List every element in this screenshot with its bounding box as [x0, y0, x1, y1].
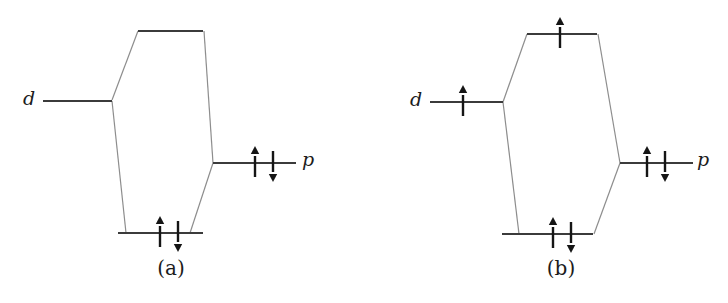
- spin-up-arrow-head: [459, 85, 467, 93]
- d-orbital-label-b: d: [410, 90, 422, 109]
- spin-down-arrow-icon: [661, 151, 669, 182]
- spin-up-arrow-head: [556, 17, 564, 25]
- spin-down-arrow-head: [269, 174, 277, 182]
- spin-down-arrow-head: [567, 245, 575, 253]
- spin-up-arrow-head: [251, 146, 259, 154]
- spin-up-arrow-icon: [459, 85, 467, 116]
- p-orbital-label-b: p: [697, 150, 709, 169]
- connector-line: [598, 34, 620, 163]
- p-orbital-label-a: p: [302, 150, 314, 169]
- spin-down-arrow-icon: [174, 221, 182, 252]
- connector-line: [503, 102, 519, 234]
- diagram-caption-a: (a): [151, 258, 191, 278]
- spin-up-arrow-icon: [156, 216, 164, 247]
- spin-up-arrow-icon: [549, 217, 557, 248]
- spin-up-arrow-icon: [556, 17, 564, 48]
- spin-down-arrow-head: [174, 244, 182, 252]
- connector-line: [190, 163, 213, 233]
- connector-line: [112, 31, 138, 100]
- connector-line: [112, 101, 126, 233]
- spin-up-arrow-head: [549, 217, 557, 225]
- figure-canvas: [0, 0, 728, 303]
- connector-line: [204, 31, 213, 163]
- orbital-energy-diagram-figure: d p (a) d p (b): [0, 0, 728, 303]
- spin-down-arrow-head: [661, 174, 669, 182]
- spin-down-arrow-icon: [269, 151, 277, 182]
- spin-up-arrow-head: [643, 146, 651, 154]
- spin-up-arrow-head: [156, 216, 164, 224]
- diagram-caption-b: (b): [541, 258, 581, 278]
- connector-line: [594, 163, 620, 234]
- spin-up-arrow-icon: [251, 146, 259, 177]
- spin-up-arrow-icon: [643, 146, 651, 177]
- d-orbital-label-a: d: [23, 89, 35, 108]
- spin-down-arrow-icon: [567, 222, 575, 253]
- connector-line: [503, 34, 527, 102]
